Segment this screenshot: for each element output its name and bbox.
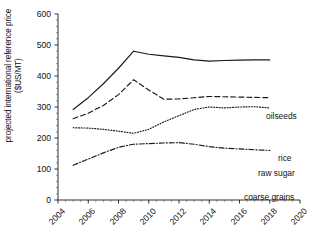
y-tick-label: 600	[25, 9, 51, 19]
y-tick-label: 100	[25, 164, 51, 174]
y-tick-label: 500	[25, 40, 51, 50]
y-tick-label: 0	[25, 195, 51, 205]
y-tick-label: 400	[25, 71, 51, 81]
legend-label-oilseeds: oilseeds	[266, 111, 297, 121]
series-line-oilseeds	[73, 51, 270, 109]
legend-label-coarse-grains: coarse grains	[244, 192, 294, 202]
y-tick-label: 300	[25, 102, 51, 112]
y-tick-label: 200	[25, 133, 51, 143]
series-line-rice	[73, 80, 270, 119]
legend-label-raw-sugar: raw sugar	[258, 168, 295, 178]
series-line-raw-sugar	[73, 107, 270, 134]
series-line-coarse-grains	[73, 143, 270, 166]
legend-label-rice: rice	[278, 153, 292, 163]
line-chart: projected international reference price …	[0, 0, 319, 237]
